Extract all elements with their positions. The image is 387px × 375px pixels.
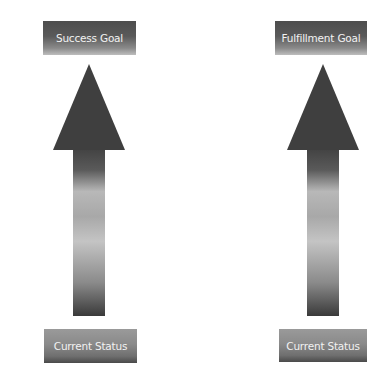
up-arrow-icon: [52, 64, 126, 316]
current-status-label-left: Current Status: [54, 340, 127, 352]
fulfillment-goal-label: Fulfillment Goal: [282, 32, 361, 44]
success-goal-label: Success Goal: [56, 32, 123, 44]
up-arrow-icon: [286, 64, 360, 316]
current-status-box-left: Current Status: [44, 329, 137, 363]
current-status-label-right: Current Status: [286, 340, 359, 352]
current-status-box-right: Current Status: [279, 329, 367, 362]
fulfillment-goal-box: Fulfillment Goal: [275, 21, 367, 55]
success-goal-box: Success Goal: [43, 21, 136, 55]
